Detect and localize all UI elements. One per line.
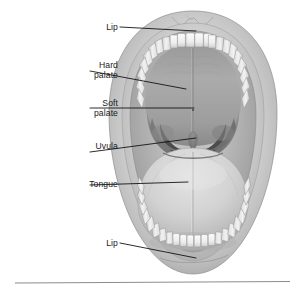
- label-lip-bottom: Lip: [58, 239, 118, 249]
- label-lip-top: Lip: [58, 23, 118, 33]
- label-hard-palate: Hard palate: [46, 61, 118, 80]
- label-tongue: Tongue: [34, 180, 118, 190]
- label-soft-palate: Soft palate: [46, 99, 118, 118]
- footer-divider: [15, 282, 290, 284]
- palate-midline-dot: [192, 109, 194, 111]
- label-uvula: Uvula: [44, 142, 118, 152]
